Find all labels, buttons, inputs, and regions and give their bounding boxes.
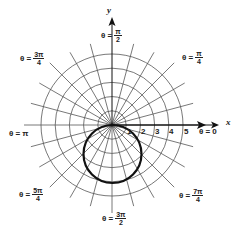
radial-line: [112, 125, 154, 198]
radial-line: [112, 103, 193, 125]
radial-line: [112, 83, 185, 125]
curve-circle: [84, 125, 142, 183]
radial-line: [90, 44, 112, 125]
label-theta-0: θ =0: [199, 128, 217, 136]
radial-line: [70, 52, 112, 125]
radial-line: [39, 83, 112, 125]
tick-1: 1: [127, 128, 131, 136]
radial-line: [112, 125, 134, 206]
tick-4: 4: [169, 128, 173, 136]
radial-line: [50, 63, 112, 125]
radial-line: [112, 125, 185, 167]
label-theta-7pi-over-4: θ = 7π4: [179, 188, 203, 203]
radial-line: [90, 125, 112, 206]
radial-line: [112, 63, 174, 125]
pole-dot: [111, 124, 114, 127]
label-theta-pi-over-2: θ = π2: [101, 28, 122, 43]
radial-line: [31, 103, 112, 125]
tick-2: 2: [141, 128, 145, 136]
radial-line: [112, 52, 154, 125]
label-theta-5pi-over-4: θ = 5π4: [19, 187, 43, 202]
label-theta-3pi-over-2: θ = 3π2: [102, 211, 126, 226]
x-axis-label: x: [226, 118, 231, 127]
radial-lines: [24, 44, 193, 213]
tick-5: 5: [184, 128, 188, 136]
tick-3: 3: [155, 128, 159, 136]
radial-line: [39, 125, 112, 167]
y-axis-label: y: [107, 6, 111, 15]
radial-line: [50, 125, 112, 187]
radial-line: [112, 44, 134, 125]
label-theta-pi-over-4: θ = π4: [182, 50, 203, 65]
label-theta-pi: θ =π: [9, 130, 28, 138]
label-theta-3pi-over-4: θ = 3π4: [20, 51, 44, 66]
